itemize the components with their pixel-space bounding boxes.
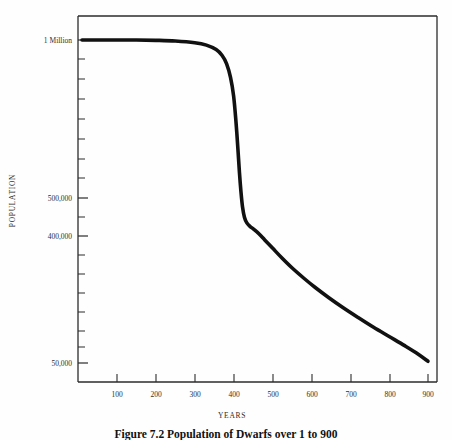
x-tick-label-700: 700 <box>341 390 361 399</box>
x-tick-label-200: 200 <box>146 390 166 399</box>
y-tick-label-50000: 50,000 <box>4 359 72 368</box>
x-axis-title: YEARS <box>218 411 246 420</box>
x-tick-label-500: 500 <box>263 390 283 399</box>
y-tick-label-1-million: 1 Million <box>4 36 72 45</box>
x-tick-label-400: 400 <box>224 390 244 399</box>
x-tick-label-100: 100 <box>107 390 127 399</box>
figure-container: 1 Million 500,000 400,000 50,000 100 200… <box>0 0 452 440</box>
data-series-line <box>82 40 428 361</box>
population-decline-chart <box>0 0 452 440</box>
y-axis-title: POPULATION <box>8 165 17 237</box>
figure-caption: Figure 7.2 Population of Dwarfs over 1 t… <box>0 428 452 440</box>
x-tick-label-300: 300 <box>185 390 205 399</box>
x-tick-label-800: 800 <box>380 390 400 399</box>
plot-frame <box>78 16 437 382</box>
x-tick-label-600: 600 <box>302 390 322 399</box>
y-axis-major-ticks <box>78 40 88 363</box>
y-axis-minor-ticks <box>78 59 85 347</box>
x-axis-ticks <box>117 374 428 382</box>
x-tick-label-900: 900 <box>418 390 438 399</box>
